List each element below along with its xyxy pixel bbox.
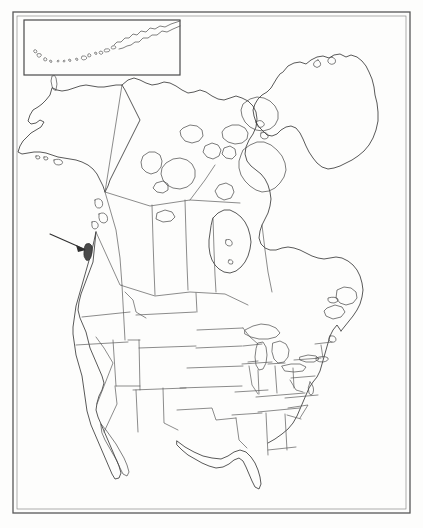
state-border-nd-sd	[197, 328, 243, 330]
state-border-az-nm	[136, 390, 138, 432]
nova-scotia	[324, 305, 345, 319]
state-border-tn-ms-al	[258, 408, 300, 412]
greenland	[253, 54, 378, 169]
state-border-va-nc	[285, 395, 318, 398]
lake-huron	[272, 341, 289, 363]
inset-island	[50, 60, 53, 63]
state-border-al-ga	[285, 414, 287, 450]
prince-edward-island	[328, 297, 338, 303]
inset-island	[34, 50, 37, 53]
state-border-ga-fl	[268, 447, 296, 450]
alaska-coastline	[18, 85, 140, 192]
inset-island	[63, 60, 65, 62]
locator-annotation	[50, 234, 92, 261]
lake-michigan	[255, 342, 267, 370]
state-border-ut-co	[139, 340, 140, 390]
alaska	[18, 75, 140, 192]
state-border-ks-ok	[180, 386, 242, 388]
united-states	[73, 199, 341, 489]
state-border-ia-mo	[242, 362, 272, 364]
state-border-ut-nv	[113, 340, 116, 386]
state-border-new-england	[315, 342, 332, 344]
state-border-mn-ia	[243, 344, 262, 346]
us-east-coast	[268, 325, 341, 443]
state-border-or-ca	[76, 342, 128, 345]
state-border-ar-la	[232, 413, 262, 415]
somerset-island	[222, 146, 236, 159]
victoria-island	[161, 158, 195, 189]
alaska-canada-border	[105, 85, 122, 192]
province-border-on-qc	[262, 225, 272, 292]
inset-island	[76, 58, 79, 61]
map-page	[0, 0, 423, 528]
inset-island	[37, 54, 41, 58]
territory-border-nunavut	[190, 165, 215, 200]
inset-island	[95, 52, 98, 55]
state-border-mt-nd	[196, 293, 197, 312]
inset-island	[104, 49, 110, 52]
province-border-ab-sk	[152, 205, 155, 295]
state-border-pa-md-va	[291, 376, 315, 378]
state-border-id-mt	[125, 292, 146, 318]
aleutian-islands-inset	[24, 20, 180, 75]
small-arctic-island	[153, 181, 168, 193]
state-border-sc-ga	[287, 415, 301, 419]
state-border-nv-ca	[96, 337, 113, 404]
highlighted-island	[84, 243, 93, 260]
state-border-nm-tx	[163, 388, 178, 430]
baja-california	[101, 424, 129, 476]
lake-superior	[245, 324, 280, 339]
state-border-ne-ks	[187, 366, 243, 368]
state-border-pa-ny	[294, 358, 321, 360]
territory-border-nwt	[105, 192, 240, 206]
inset-island	[57, 60, 59, 62]
pacific-northwest-islands	[92, 199, 108, 229]
state-border-mo-ar	[235, 390, 268, 392]
state-border-tx-la	[236, 418, 247, 448]
inset-island	[88, 54, 91, 57]
cape-cod	[329, 336, 336, 342]
inset-island	[111, 46, 116, 49]
devon-island	[222, 125, 248, 144]
hudson-bay-islands	[225, 239, 233, 264]
southampton-island	[215, 183, 234, 200]
newfoundland-island	[336, 287, 357, 305]
state-border-sd-ne	[196, 346, 242, 348]
canada	[105, 78, 363, 331]
state-border-ny-ne	[321, 345, 323, 358]
frame-inner-rect	[17, 16, 406, 509]
lake-erie	[282, 364, 306, 372]
small-arctic-island	[156, 210, 175, 222]
inset-island	[69, 59, 72, 62]
state-border-mn-wi	[243, 328, 258, 344]
alaska-peninsula-inset	[114, 21, 180, 49]
state-border-ky-tn	[256, 393, 305, 397]
greenland-coastline	[253, 54, 378, 169]
state-border-wa-or	[82, 312, 130, 317]
state-border-in-oh	[275, 366, 277, 393]
state-border-co-nm	[133, 388, 186, 390]
prince-of-wales-island	[203, 143, 221, 159]
province-border-sk-mb	[185, 200, 188, 290]
state-border-az-ca	[104, 386, 117, 432]
state-border-wy-co	[139, 346, 196, 348]
greenland-fjords	[314, 57, 336, 68]
hudson-bay-coastline	[209, 210, 251, 273]
banks-island	[141, 152, 162, 174]
province-border-mb-on	[213, 218, 216, 292]
melville-island	[180, 125, 203, 143]
inset-island	[44, 58, 47, 61]
gulf-florida-coast	[177, 441, 261, 489]
state-border-wv-va	[290, 380, 303, 392]
inset-island	[99, 51, 103, 54]
state-border-mo-il	[249, 366, 258, 394]
state-border-mi-oh-in	[268, 363, 285, 364]
state-border-mt-wy	[136, 312, 196, 315]
north-america-map	[0, 0, 423, 528]
inset-island	[81, 56, 87, 60]
state-border-ok-tx	[177, 408, 236, 420]
state-border-wi-il	[248, 361, 258, 362]
state-border-ms-al	[266, 413, 268, 455]
ellesmere-island	[241, 97, 278, 131]
